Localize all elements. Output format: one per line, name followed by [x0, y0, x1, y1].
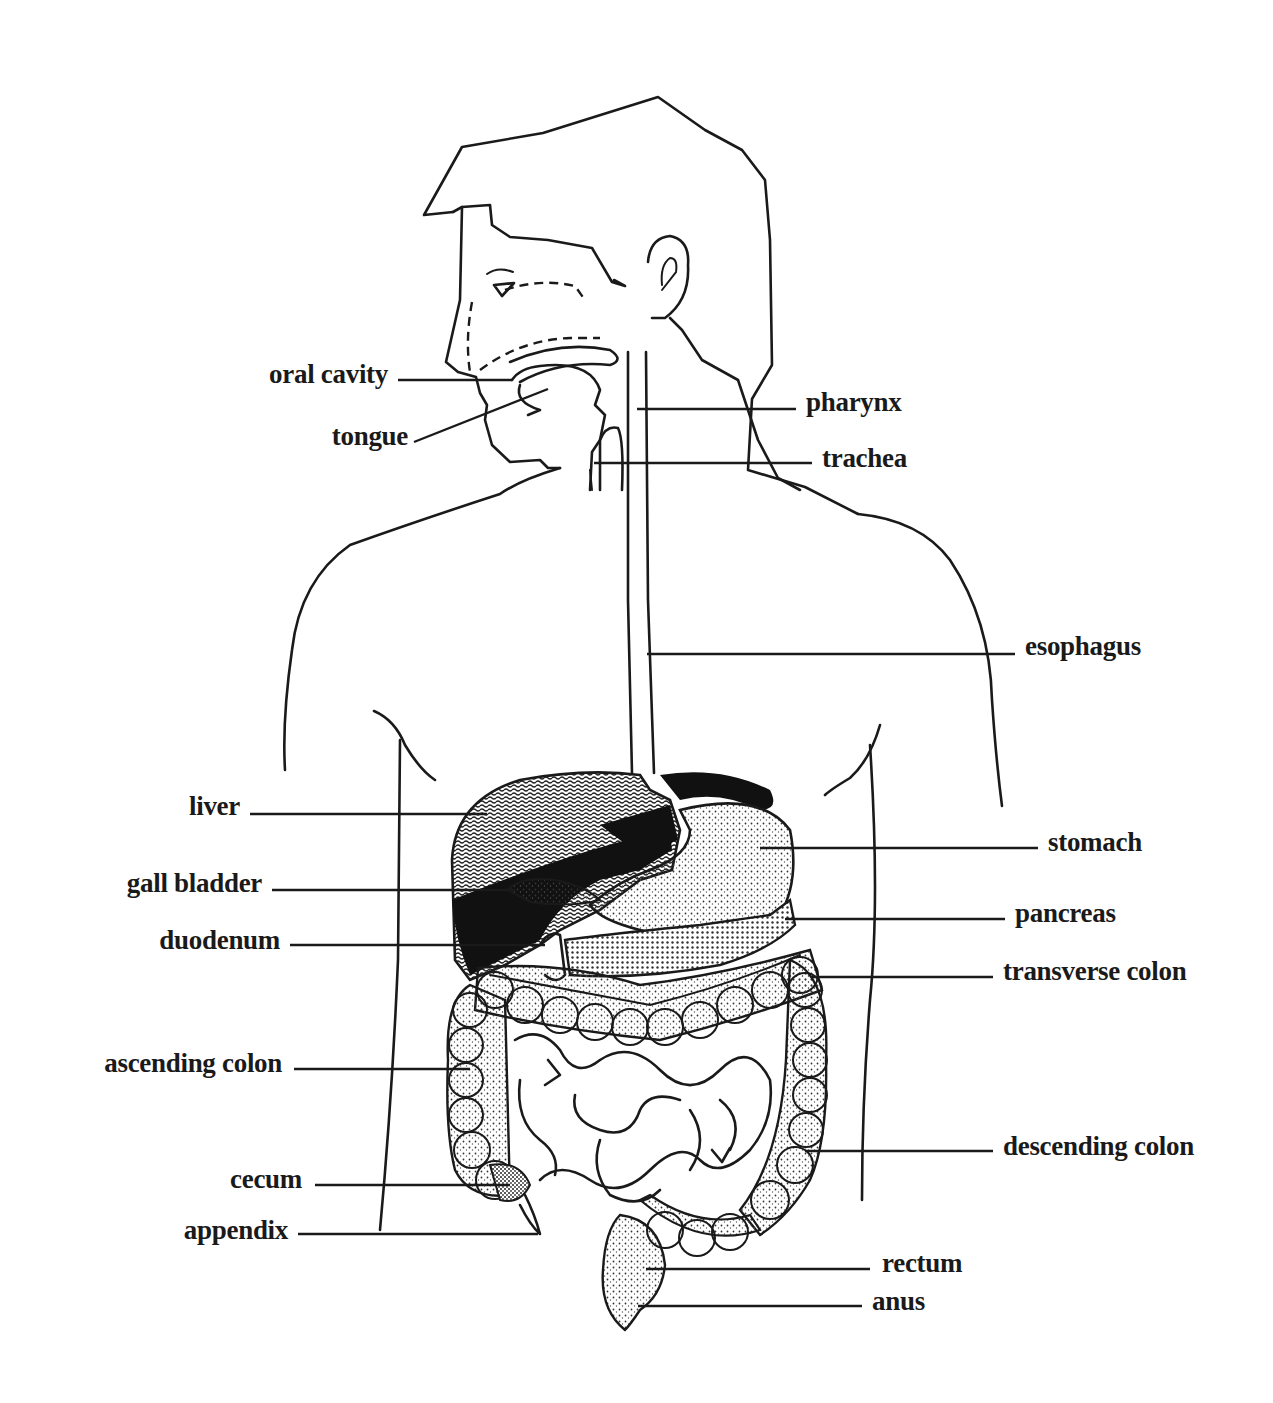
digestive-system-diagram: oral cavity tongue pharynx trachea esoph…: [0, 0, 1273, 1403]
label-pancreas: pancreas: [1015, 900, 1116, 927]
label-tongue: tongue: [332, 423, 408, 450]
rectum: [603, 1215, 665, 1330]
label-liver: liver: [189, 793, 240, 820]
label-duodenum: duodenum: [159, 927, 280, 954]
label-cecum: cecum: [230, 1166, 302, 1193]
label-appendix: appendix: [184, 1217, 288, 1244]
label-anus: anus: [872, 1288, 925, 1315]
label-esophagus: esophagus: [1025, 633, 1141, 660]
label-gall-bladder: gall bladder: [127, 870, 262, 897]
anatomy-illustration: [0, 0, 1273, 1403]
label-rectum: rectum: [882, 1250, 962, 1277]
label-trachea: trachea: [822, 445, 907, 472]
label-transverse-colon: transverse colon: [1003, 958, 1186, 985]
head-outline: [424, 97, 858, 514]
airway-and-esophagus: [590, 352, 654, 773]
label-stomach: stomach: [1048, 829, 1142, 856]
small-intestine: [515, 1034, 771, 1201]
label-ascending-colon: ascending colon: [104, 1050, 282, 1077]
label-pharynx: pharynx: [806, 389, 901, 416]
label-oral-cavity: oral cavity: [269, 361, 388, 388]
label-descending-colon: descending colon: [1003, 1133, 1194, 1160]
appendix: [520, 1195, 540, 1234]
